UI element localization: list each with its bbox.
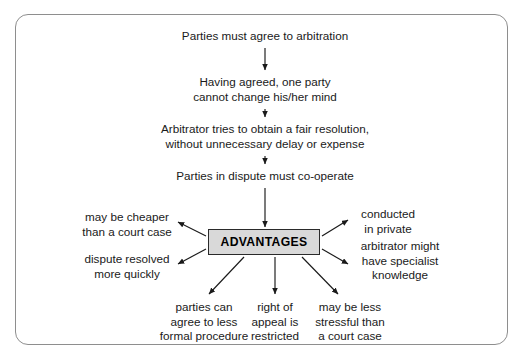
advantage-cheaper: may be cheaperthan a court case	[82, 210, 172, 239]
advantage-informal: parties canagree to lessformal procedure	[160, 300, 248, 344]
flow-step-3: Arbitrator tries to obtain a fair resolu…	[161, 122, 369, 151]
advantage-stressful: may be lessstressful thana court case	[315, 300, 385, 344]
flow-step-2: Having agreed, one partycannot change hi…	[193, 75, 337, 104]
advantage-appeal: right ofappeal isrestricted	[251, 300, 299, 344]
flow-step-1: Parties must agree to arbitration	[182, 29, 348, 44]
flow-step-4: Parties in dispute must co-operate	[176, 169, 353, 184]
advantage-quicker: dispute resolvedmore quickly	[84, 252, 169, 281]
advantage-private: conductedin private	[361, 207, 415, 236]
advantages-node: ADVANTAGES	[208, 229, 320, 255]
advantage-specialist: arbitrator mighthave specialistknowledge	[361, 239, 440, 283]
